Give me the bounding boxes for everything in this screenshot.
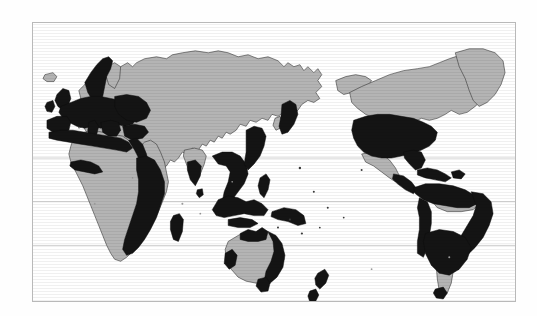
- island-speck: [319, 227, 321, 229]
- region-new-zealand-black: [308, 269, 329, 301]
- region-philippines-black: [258, 174, 270, 198]
- island-speck: [301, 232, 303, 234]
- island-speck: [289, 218, 291, 220]
- figure-root: [0, 0, 537, 316]
- island-speck: [277, 227, 279, 229]
- region-indonesia-black: [212, 196, 268, 228]
- scan-speck: [231, 181, 233, 183]
- island-speck: [343, 217, 345, 219]
- region-us-southeast-black: [403, 150, 425, 170]
- region-iceland-gray: [43, 73, 57, 82]
- map-frame: [32, 22, 516, 302]
- scan-speck: [448, 256, 450, 258]
- island-speck: [361, 169, 363, 171]
- scan-speck: [94, 203, 96, 205]
- region-central-america-black: [393, 174, 418, 194]
- region-madagascar-black: [170, 214, 183, 242]
- world-map-svg: [33, 23, 515, 301]
- scan-speck: [132, 177, 134, 179]
- scan-speck: [199, 213, 201, 215]
- region-united-states-black: [352, 114, 438, 158]
- region-caribbean-black: [417, 168, 465, 182]
- scan-speck: [371, 268, 373, 270]
- region-papua-new-guinea-black: [271, 208, 306, 226]
- region-south-india-black: [187, 160, 203, 198]
- island-speck: [313, 191, 315, 193]
- island-speck: [327, 207, 329, 209]
- island-speck: [299, 167, 301, 169]
- region-china-coast-black: [244, 126, 266, 170]
- region-australia-north-black: [240, 228, 268, 242]
- region-japan-black: [279, 100, 298, 134]
- scan-speck: [181, 203, 183, 205]
